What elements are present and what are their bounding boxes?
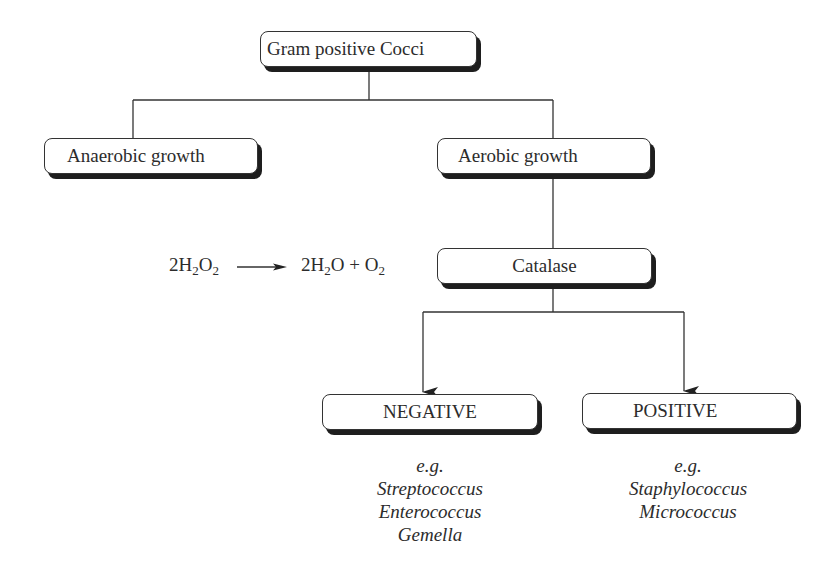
node-gram-positive-cocci: Gram positive Cocci — [260, 31, 477, 67]
node-label: POSITIVE — [633, 400, 717, 422]
positive-examples-list: e.g. Staphylococcus Micrococcus — [588, 454, 788, 523]
flowchart-canvas: Gram positive Cocci Anaerobic growth Aer… — [0, 0, 833, 573]
node-label: Catalase — [512, 255, 576, 277]
examples-prefix: e.g. — [330, 454, 530, 477]
example-organism: Micrococcus — [588, 500, 788, 523]
example-organism: Staphylococcus — [588, 477, 788, 500]
example-organism: Streptococcus — [330, 477, 530, 500]
node-negative: NEGATIVE — [322, 394, 538, 430]
catalase-reaction-equation: 2H2O22H2O + O2 — [169, 254, 385, 279]
node-label: Aerobic growth — [458, 145, 578, 167]
examples-prefix: e.g. — [588, 454, 788, 477]
node-label: Anaerobic growth — [67, 145, 205, 167]
node-label: NEGATIVE — [383, 401, 477, 423]
example-organism: Enterococcus — [330, 500, 530, 523]
reaction-arrow-icon — [237, 262, 287, 272]
example-organism: Gemella — [330, 523, 530, 546]
node-catalase: Catalase — [437, 248, 652, 284]
negative-examples-list: e.g. Streptococcus Enterococcus Gemella — [330, 454, 530, 546]
equation-products: 2H2O + O2 — [301, 254, 385, 279]
node-anaerobic-growth: Anaerobic growth — [44, 138, 258, 174]
node-aerobic-growth: Aerobic growth — [437, 138, 651, 174]
node-label: Gram positive Cocci — [267, 38, 424, 60]
equation-reactant: 2H2O2 — [169, 254, 219, 279]
node-positive: POSITIVE — [582, 393, 797, 429]
